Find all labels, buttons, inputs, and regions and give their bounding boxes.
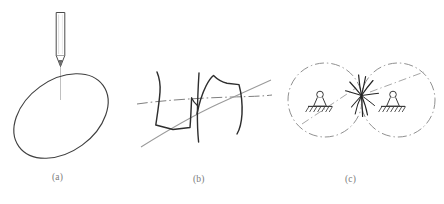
pin-support-left-body [314,97,327,106]
ellipse-outline [0,56,124,175]
panel-b-stroke-2 [197,76,242,135]
stylus-barrel [56,13,65,56]
panel-c-circle-left [288,63,362,137]
pin-support-left-pivot [317,91,324,98]
panel-b-center-line [137,95,272,104]
panel-c-starburst-scribble [346,75,379,117]
technical-figure: (a) (b) (c) [0,0,444,204]
pin-support-right-pivot [390,91,397,98]
panel-a-caption: (a) [52,172,63,182]
pin-support-right-hatching [379,106,406,112]
figure-drawing-canvas [0,0,444,204]
panel-c-caption: (c) [345,174,356,184]
pin-support-left [306,91,333,112]
pin-support-right-body [387,97,400,106]
panel-c-axis-right [370,72,424,92]
pin-support-right [379,91,406,112]
panel-c-group [288,63,435,137]
pin-support-left-hatching [306,106,333,112]
panel-a-group [0,13,124,176]
panel-b-caption: (b) [193,174,205,184]
panel-b-group [137,72,272,147]
panel-c-circle-right [361,63,435,137]
